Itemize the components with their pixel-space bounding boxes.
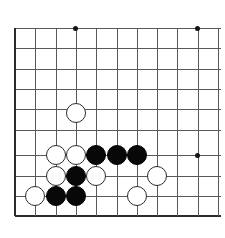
black-stone[interactable] <box>107 145 127 165</box>
black-stone[interactable] <box>66 166 86 186</box>
hoshi-top-right <box>195 26 200 31</box>
grid-line-vertical <box>177 28 178 216</box>
black-stone[interactable] <box>66 186 86 206</box>
grid-line-vertical <box>157 28 158 216</box>
white-stone[interactable] <box>46 145 66 165</box>
white-stone[interactable] <box>86 166 106 186</box>
grid-line-horizontal <box>15 28 221 29</box>
grid-line-horizontal <box>15 109 221 110</box>
hoshi-lower-right <box>195 153 200 158</box>
black-stone[interactable] <box>86 145 106 165</box>
black-stone[interactable] <box>46 186 66 206</box>
black-stone[interactable] <box>127 145 147 165</box>
go-board-diagram <box>0 0 225 238</box>
grid-line-vertical <box>96 28 97 216</box>
grid-line-vertical <box>218 28 219 216</box>
white-stone[interactable] <box>66 103 86 123</box>
grid-line-horizontal <box>15 89 221 90</box>
goban-grid[interactable] <box>0 0 225 238</box>
white-stone[interactable] <box>147 166 167 186</box>
grid-line-horizontal <box>15 130 221 131</box>
white-stone[interactable] <box>127 186 147 206</box>
white-stone[interactable] <box>66 145 86 165</box>
hoshi-top-left <box>73 26 78 31</box>
grid-line-horizontal <box>15 69 221 70</box>
board-left-edge <box>14 28 16 216</box>
board-bottom-edge <box>15 215 221 217</box>
grid-line-vertical <box>198 28 199 216</box>
grid-line-vertical <box>117 28 118 216</box>
white-stone[interactable] <box>46 166 66 186</box>
grid-line-horizontal <box>15 48 221 49</box>
white-stone[interactable] <box>25 186 45 206</box>
